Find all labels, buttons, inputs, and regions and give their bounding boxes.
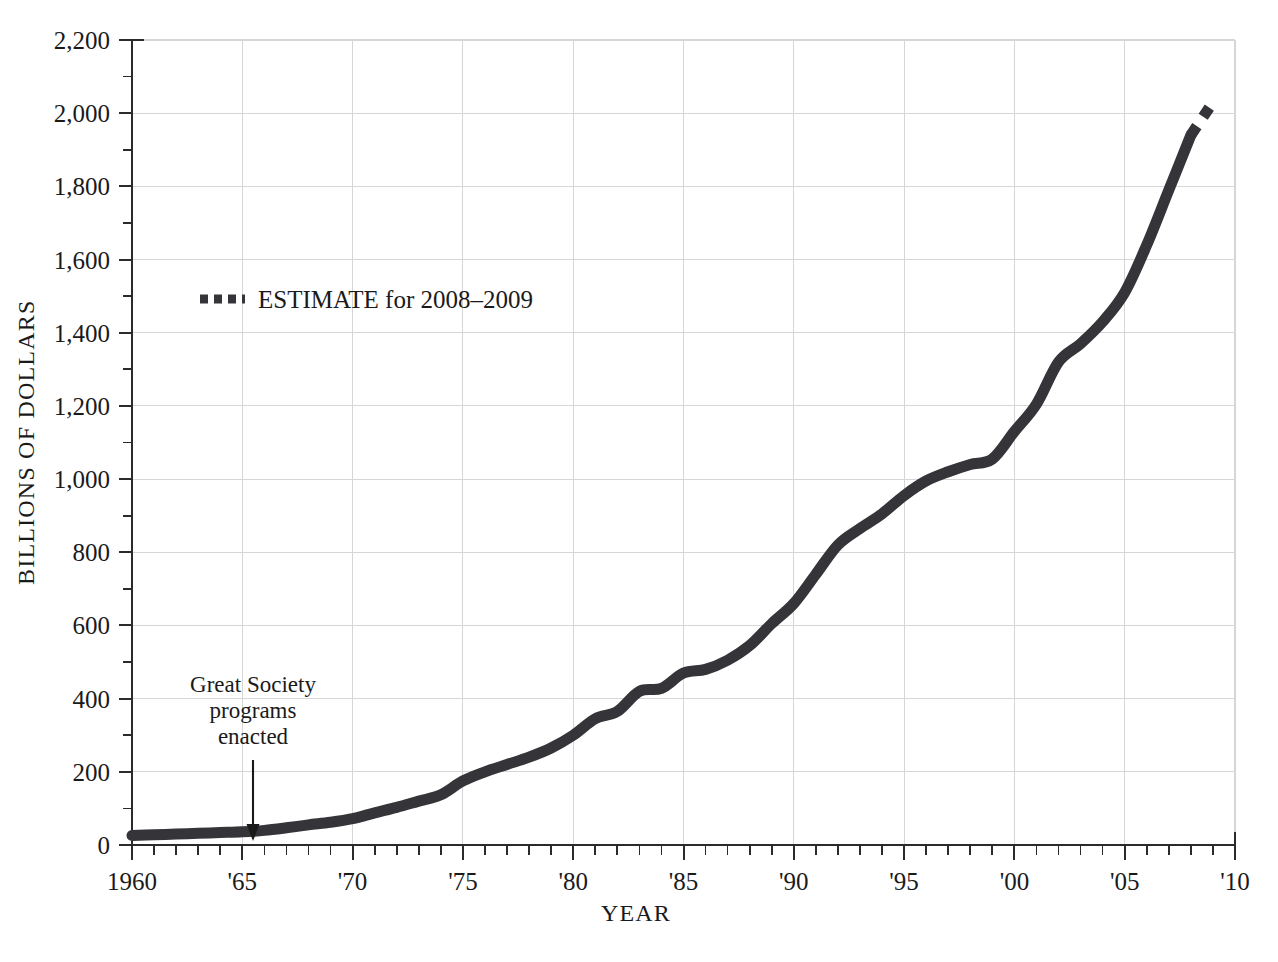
gridlines-group	[132, 40, 1235, 845]
x-tick-label: '75	[448, 868, 478, 895]
y-tick-label: 1,800	[54, 173, 110, 200]
y-tick-label: 600	[73, 612, 111, 639]
data-series-group	[132, 102, 1213, 835]
y-tick-label: 1,200	[54, 393, 110, 420]
x-tick-label: '00	[1000, 868, 1030, 895]
series-line-estimate	[1191, 102, 1213, 135]
line-chart-svg: 02004006008001,0001,2001,4001,6001,8002,…	[0, 0, 1278, 962]
y-tick-label: 1,400	[54, 320, 110, 347]
y-tick-label: 2,200	[54, 27, 110, 54]
x-tick-label: '10	[1220, 868, 1250, 895]
y-tick-label: 400	[73, 686, 111, 713]
legend-label: ESTIMATE for 2008–2009	[258, 286, 533, 313]
x-tick-label: '85	[669, 868, 699, 895]
annotation-line-1: Great Society	[190, 672, 316, 697]
y-tick-label: 1,000	[54, 466, 110, 493]
y-axis-title: BILLIONS OF DOLLARS	[13, 300, 39, 585]
x-axis-title: YEAR	[601, 900, 671, 926]
chart-figure: 02004006008001,0001,2001,4001,6001,8002,…	[0, 0, 1278, 962]
x-tick-label: '70	[338, 868, 368, 895]
x-tick-label: '80	[558, 868, 588, 895]
x-tick-label: '05	[1110, 868, 1140, 895]
annotation-line-2: programs	[210, 698, 297, 723]
annotation-great-society: Great Society programs enacted	[190, 672, 316, 841]
series-line-actual	[132, 135, 1191, 835]
annotation-line-3: enacted	[218, 724, 289, 749]
y-tick-label: 2,000	[54, 100, 110, 127]
x-tick-label: 1960	[107, 868, 157, 895]
y-tick-label: 800	[73, 539, 111, 566]
y-tick-label: 0	[98, 832, 111, 859]
y-tick-labels-group: 02004006008001,0001,2001,4001,6001,8002,…	[54, 27, 110, 859]
x-tick-label: '90	[779, 868, 809, 895]
x-tick-label: '95	[889, 868, 919, 895]
x-tick-label: '65	[228, 868, 258, 895]
y-tick-label: 1,600	[54, 247, 110, 274]
legend: ESTIMATE for 2008–2009	[200, 286, 533, 313]
y-tick-label: 200	[73, 759, 111, 786]
x-tick-labels-group: 1960'65'70'75'80'85'90'95'00'05'10	[107, 868, 1250, 895]
